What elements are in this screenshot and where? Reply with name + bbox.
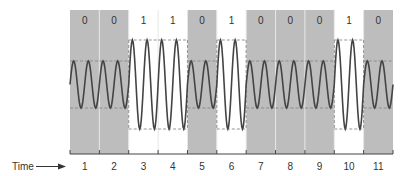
- bit-label: 0: [317, 15, 323, 26]
- time-tick-label: 2: [111, 161, 117, 172]
- bit-label: 1: [229, 15, 235, 26]
- time-tick-label: 11: [373, 161, 384, 172]
- bit-label: 0: [111, 15, 117, 26]
- bit-label: 0: [376, 15, 382, 26]
- bit-label: 1: [141, 15, 147, 26]
- bit-label: 0: [199, 15, 205, 26]
- time-arrow-head-icon: [58, 164, 66, 170]
- time-tick-label: 8: [287, 161, 293, 172]
- time-tick-label: 5: [199, 161, 205, 172]
- time-label: Time: [12, 161, 34, 172]
- time-tick-label: 10: [343, 161, 355, 172]
- bit-label: 1: [170, 15, 176, 26]
- bit-label: 0: [258, 15, 264, 26]
- time-tick-label: 7: [258, 161, 264, 172]
- bit-label: 0: [82, 15, 88, 26]
- time-tick-label: 4: [170, 161, 176, 172]
- time-axis-legend: Time: [12, 161, 66, 172]
- bit-label: 0: [287, 15, 293, 26]
- ask-modulation-diagram: 00110100010 1234567891011 Time: [0, 0, 408, 176]
- time-tick-label: 3: [141, 161, 147, 172]
- time-tick-label: 6: [229, 161, 235, 172]
- time-tick-label: 9: [317, 161, 323, 172]
- bit-label: 1: [346, 15, 352, 26]
- time-tick-labels: 1234567891011: [82, 161, 384, 172]
- time-tick-label: 1: [82, 161, 88, 172]
